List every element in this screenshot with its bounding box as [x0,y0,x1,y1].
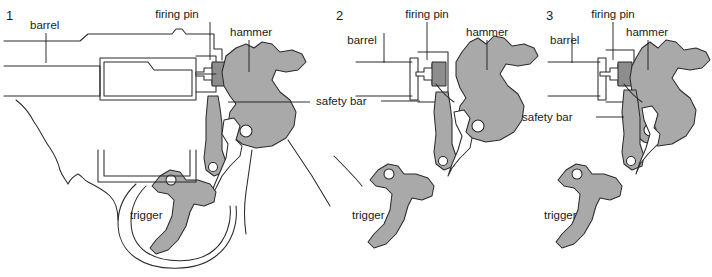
safety-bar-pin [209,163,218,172]
panel-1-label-trigger: trigger [130,209,163,221]
panel-2-label-barrel: barrel [347,34,376,46]
panel-3-label-trigger: trigger [544,209,577,221]
panel-1-label-firing-pin: firing pin [155,8,198,20]
panel-3-label-barrel: barrel [550,34,579,46]
panel-1-label-hammer: hammer [230,26,272,38]
panel-2-firing-pin-head [432,62,446,86]
panel-3-label-safety-bar: safety bar [522,111,573,123]
panel-2-trigger-pivot-pin [384,169,394,179]
hammer-pivot-pin [240,125,252,137]
diagram-canvas: 1 [0,0,712,277]
panel-3-firing-pin-head [618,62,632,86]
panel-2-label-hammer: hammer [466,26,508,38]
panel-2-number: 2 [336,8,343,23]
panel-2-safety-bar-pin [439,157,448,166]
panel-3-trigger-pivot-pin [572,169,582,179]
panel-3-number: 3 [546,8,553,23]
panel-1-number: 1 [6,8,13,23]
panel-2-hammer-pivot-pin [472,120,484,132]
panel-2-label-trigger: trigger [352,209,385,221]
panel-3-label-firing-pin: firing pin [591,8,634,20]
label-safety-bar-1-2: safety bar [316,95,367,107]
revolver-mechanism-diagram: 1 [0,0,712,277]
panel-1-label-barrel: barrel [30,19,59,31]
panel-2-label-firing-pin: firing pin [405,8,448,20]
panel-3-safety-bar-pin [627,157,636,166]
panel-3-label-hammer: hammer [626,26,668,38]
